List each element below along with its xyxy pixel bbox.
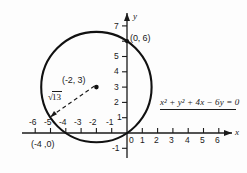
y-tick-label-5: 5 <box>114 52 119 61</box>
x-tick-label--5: -5 <box>44 118 51 127</box>
x-tick-label--6: -6 <box>29 118 36 127</box>
y-tick-label-3: 3 <box>114 83 119 92</box>
y-tick-label-1: 1 <box>117 113 122 122</box>
x-intercept-label: (-4 ,0) <box>31 140 54 149</box>
x-tick-label-2: 2 <box>154 136 159 145</box>
y-tick-label--1: -1 <box>112 144 119 153</box>
circle-graph-figure: y x 0 -6 -5 -4 -3 -2 -1 1 2 3 4 5 6 7 5 … <box>0 0 247 173</box>
radius-length-label: √13 <box>48 92 62 102</box>
x-tick-label-1: 1 <box>140 136 145 145</box>
x-tick-label--4: -4 <box>59 118 66 127</box>
equation-text: x² + y² + 4x − 6y = 0 <box>160 97 239 109</box>
origin-label: 0 <box>129 136 134 145</box>
x-tick-label-6: 6 <box>215 136 220 145</box>
x-axis-label: x <box>235 128 239 137</box>
center-point-marker <box>94 85 99 90</box>
equation-annotation: x² + y² + 4x − 6y = 0 <box>160 97 239 110</box>
x-tick-label--2: -2 <box>89 118 96 127</box>
y-intercept-label: (0, 6) <box>130 34 150 43</box>
x-tick-label-5: 5 <box>200 136 205 145</box>
y-intercept-point-marker <box>125 39 129 43</box>
y-axis-ticks <box>122 26 127 148</box>
y-tick-label-2: 2 <box>114 98 119 107</box>
x-tick-label-3: 3 <box>169 136 174 145</box>
y-tick-label-7: 7 <box>114 22 119 31</box>
x-tick-label--3: -3 <box>74 118 81 127</box>
y-tick-label-4: 4 <box>114 67 119 76</box>
center-label: (-2, 3) <box>62 76 85 85</box>
radicand-value: 13 <box>52 91 62 102</box>
y-axis-label: y <box>133 12 137 21</box>
x-tick-label-4: 4 <box>185 136 190 145</box>
x-tick-label--1: -1 <box>106 118 113 127</box>
equation-underline <box>160 109 236 110</box>
